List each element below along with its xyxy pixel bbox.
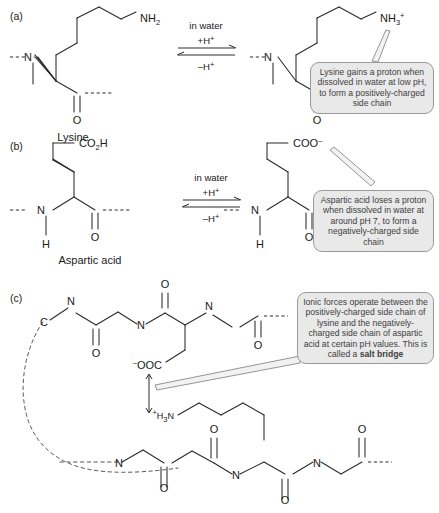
atom-n-c-lower-3: N [313, 457, 321, 469]
reaction-reverse-b: –H+ [203, 212, 220, 224]
atom-n-c-lower-2: N [232, 469, 240, 481]
callout-leader-c [155, 356, 300, 390]
panel-b-left-aspartic: N H O CO2H Aspartic acid [10, 137, 131, 266]
atom-o-b-left: O [91, 231, 100, 243]
callout-leader-a [372, 30, 390, 62]
atom-n-b-right: N [251, 204, 259, 216]
molecule-name-aspartic: Aspartic acid [59, 254, 122, 266]
reaction-arrow-b: in water +H+ –H+ [182, 172, 241, 224]
atom-h3n-plus-c: +H3N [152, 408, 174, 424]
reaction-reverse-a: –H+ [198, 60, 215, 72]
atom-coo-minus-b-right: COO– [293, 136, 323, 149]
atom-o-c-upper-3: O [254, 339, 263, 351]
reaction-condition-b: in water [194, 172, 227, 183]
atom-co2h-b-left: CO2H [79, 137, 108, 152]
atom-h-b-right: H [256, 238, 264, 250]
callout-c: Ionic forces operate between the positiv… [297, 292, 434, 364]
reaction-forward-a: +H+ [198, 34, 215, 46]
panel-c-lower-chain: +H3N O O O O N N N [60, 403, 392, 506]
atom-o-c-lower-2: O [210, 423, 219, 435]
figure-canvas: N O NH2 Lysine in water +H+ –H+ [0, 0, 439, 513]
atom-o-c-upper-1: O [92, 347, 101, 359]
salt-bridge-arrow [146, 374, 152, 413]
atom-nh2-a-left: NH2 [140, 12, 160, 27]
callout-a: Lysine gains a proton when dissolved in … [310, 62, 434, 114]
callout-leader-b [330, 147, 375, 186]
atom-ooc-minus-c: –OOC [133, 358, 162, 371]
atom-n-a-left: N [24, 51, 32, 63]
panel-label-b: (b) [10, 140, 23, 152]
atom-o-a-right: O [313, 114, 322, 126]
atom-h-b-left: H [42, 238, 50, 250]
reaction-arrow-a: in water +H+ –H+ [177, 20, 236, 72]
panel-label-a: (a) [10, 10, 23, 22]
atom-o-a-left: O [73, 114, 82, 126]
atom-n-a-right: N [264, 51, 272, 63]
callout-c-bold: salt bridge [360, 349, 403, 359]
atom-o-c-upper-2: O [161, 278, 170, 290]
reaction-forward-b: +H+ [203, 186, 220, 198]
panel-label-c: (c) [10, 292, 22, 304]
panel-c-upper-chain: C N O N O N O –OOC [23, 278, 288, 472]
atom-n-b-left: N [37, 204, 45, 216]
atom-n-c-upper-3: N [205, 300, 213, 312]
panel-a-left-lysine: N O NH2 Lysine [10, 7, 160, 143]
reaction-condition-a: in water [189, 20, 222, 31]
atom-n-c-lower-1: N [115, 457, 123, 469]
atom-nh3plus-a-right: NH3+ [380, 11, 405, 27]
atom-n-c-upper-2: N [137, 319, 145, 331]
atom-c-c-upper: C [40, 316, 48, 328]
atom-o-c-lower-3: O [281, 494, 290, 506]
callout-b: Aspartic acid loses a proton when dissol… [313, 190, 434, 252]
atom-o-c-lower-4: O [358, 423, 367, 435]
atom-o-c-lower-1: O [160, 482, 169, 494]
atom-n-c-upper-1: N [67, 295, 75, 307]
